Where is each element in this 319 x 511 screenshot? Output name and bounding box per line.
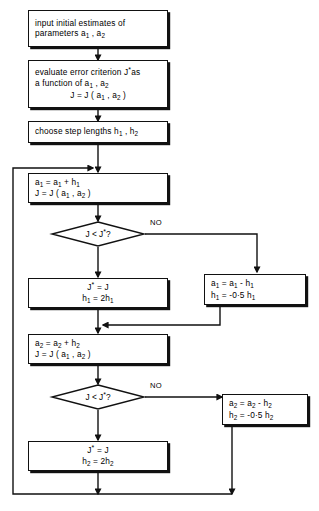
accept1-line-1: J* = J [35,282,161,294]
a2-plus-line-2: J = J ( a1 , a2 ) [35,349,161,361]
decision1-no-label: NO [150,218,162,227]
reject2-line-2: h2 = -0·5 h2 [229,410,301,422]
node-reverse-step-a2[interactable]: a2 = a2 - h2 h2 = -0·5 h2 [222,394,308,425]
node-decision-j-less-than-jstar-1[interactable]: J < J* ? [51,221,145,247]
reject1-line-2: h1 = -0·5 h1 [211,290,299,302]
evaluate-line-2: a function of a1 , a2 [35,78,161,90]
edge-reject1-to-a2-junction [103,305,220,325]
a1-plus-line-2: J = J ( a1 , a2 ) [35,188,161,200]
a1-plus-line-1: a1 = a1 + h1 [35,177,161,189]
decision2-label: J < J* ? [51,384,145,410]
accept2-line-1: J* = J [35,445,161,457]
evaluate-line-1: evaluate error criterion J*as [35,67,161,79]
reject2-line-1: a2 = a2 - h2 [229,398,301,410]
node-decision-j-less-than-jstar-2[interactable]: J < J* ? [51,384,145,410]
node-accept-step-a2[interactable]: J* = J h2 = 2h2 [28,441,168,471]
edge-decision1-no-to-reject1 [145,234,257,272]
accept2-line-2: h2 = 2h2 [35,456,161,468]
input-line-1: input initial estimates of [35,18,161,29]
node-evaluate-error-criterion[interactable]: evaluate error criterion J*as a function… [28,60,168,108]
node-choose-step-lengths[interactable]: choose step lengths h1 , h2 [28,121,168,143]
steps-line-1: choose step lengths h1 , h2 [35,126,161,138]
node-reverse-step-a1[interactable]: a1 = a1 - h1 h1 = -0·5 h1 [204,274,306,305]
node-accept-step-a1[interactable]: J* = J h1 = 2h1 [28,278,168,308]
decision2-no-label: NO [150,381,162,390]
input-line-2: parameters a1 , a2 [35,28,161,40]
flowchart-canvas: input initial estimates of parameters a1… [0,0,319,511]
node-increment-a2[interactable]: a2 = a2 + h2 J = J ( a1 , a2 ) [28,334,168,364]
decision1-label: J < J* ? [51,221,145,247]
node-increment-a1[interactable]: a1 = a1 + h1 J = J ( a1 , a2 ) [28,173,168,203]
accept1-line-2: h1 = 2h1 [35,293,161,305]
a2-plus-line-1: a2 = a2 + h2 [35,338,161,350]
reject1-line-1: a1 = a1 - h1 [211,278,299,290]
node-input-initial-estimates[interactable]: input initial estimates of parameters a1… [28,10,168,47]
evaluate-line-3: J = J ( a1 , a2 ) [35,90,161,102]
